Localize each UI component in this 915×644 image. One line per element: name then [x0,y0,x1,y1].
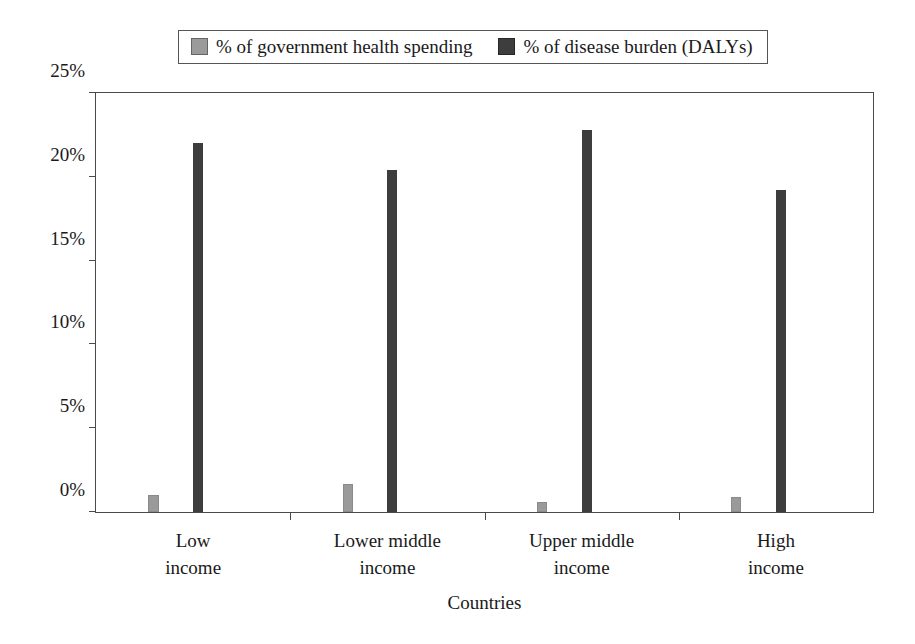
x-axis-tick-label-line: Upper middle [529,528,634,555]
y-axis-tick-label: 5% [60,395,96,417]
x-axis-tick-label-line: Lower middle [334,528,441,555]
x-axis-title: Countries [95,592,874,614]
y-axis-tick-label: 15% [50,228,96,250]
x-axis-tick-label-line: income [748,555,804,582]
bars-layer [96,93,873,512]
x-axis-tick-label-line: High [748,528,804,555]
legend-entry-disease-burden: % of disease burden (DALYs) [498,37,752,56]
legend-swatch-dark-icon [498,38,515,55]
y-axis-tick-mark [89,343,96,344]
x-axis-tick-label-line: income [334,555,441,582]
bar-group [679,93,873,512]
bar-chart: % of government health spending % of dis… [0,0,915,644]
legend-swatch-light-icon [191,38,208,55]
y-axis-tick-label: 20% [50,144,96,166]
legend-entry-government-health-spending: % of government health spending [191,37,472,56]
y-axis-tick-label: 0% [60,479,96,501]
x-axis-tick-label: Lowincome [165,528,221,582]
x-axis-tick-mark [290,512,291,520]
bar-group [96,93,290,512]
x-axis-tick-label-line: income [165,555,221,582]
plot-area: 0%5%10%15%20%25% LowincomeLower middlein… [95,92,874,513]
y-axis-tick-mark [89,92,96,93]
y-axis-tick-label: 10% [50,311,96,333]
x-axis-tick-label: Highincome [748,528,804,582]
x-axis-tick-mark [485,512,486,520]
bar-government-health-spending[interactable] [343,484,353,512]
bar-government-health-spending[interactable] [148,495,158,512]
bar-disease-burden[interactable] [387,170,397,512]
x-axis-tick-label-line: Low [165,528,221,555]
bar-disease-burden[interactable] [193,143,203,512]
bar-disease-burden[interactable] [776,190,786,512]
bar-group [485,93,679,512]
bar-disease-burden[interactable] [582,130,592,512]
legend-label-disease-burden: % of disease burden (DALYs) [523,37,752,56]
y-axis-tick-mark [89,260,96,261]
legend-label-government-health-spending: % of government health spending [216,37,472,56]
y-axis-tick-mark [89,427,96,428]
bar-group [290,93,484,512]
bar-government-health-spending[interactable] [537,502,547,512]
x-axis-tick-mark [679,512,680,520]
bar-government-health-spending[interactable] [731,497,741,512]
y-axis-tick-mark [89,511,96,512]
y-axis-tick-mark [89,176,96,177]
chart-legend: % of government health spending % of dis… [178,30,768,64]
y-axis-tick-label: 25% [50,60,96,82]
x-axis-tick-label-line: income [529,555,634,582]
x-axis-tick-label: Lower middleincome [334,528,441,582]
x-axis-tick-label: Upper middleincome [529,528,634,582]
